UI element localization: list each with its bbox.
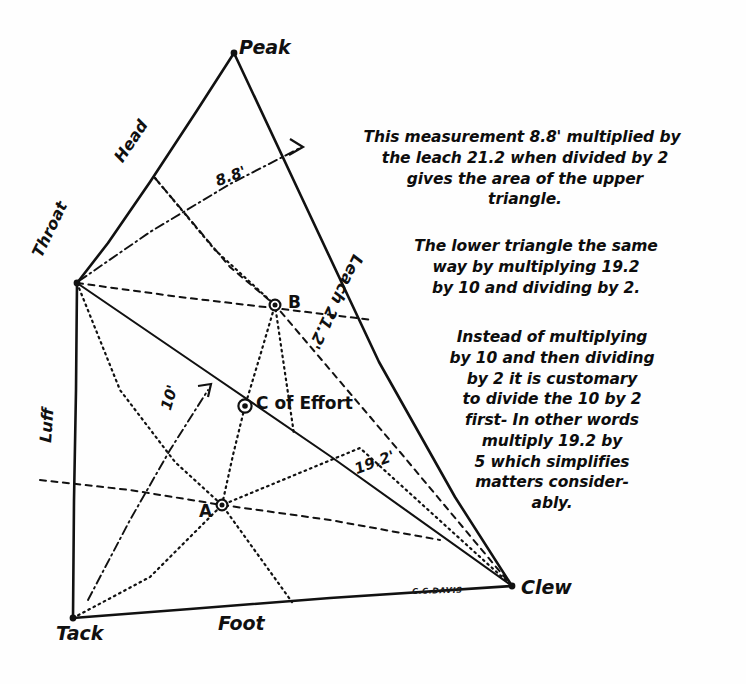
point-label-a: A xyxy=(199,501,212,521)
point-label-b: B xyxy=(288,292,301,312)
note-line: gives the area of the upper xyxy=(310,169,740,190)
measure-88-arrowhead xyxy=(289,139,303,155)
note-line: This measurement 8.8' multiplied by xyxy=(310,127,740,148)
measure-10-line xyxy=(88,390,208,600)
vertex-dot-tack xyxy=(70,615,77,622)
vertex-label-peak: Peak xyxy=(239,36,291,58)
note-line: by 10 and then dividing xyxy=(368,348,736,369)
edge-label-luff: Luff xyxy=(36,407,57,443)
note-line: matters consider- xyxy=(368,472,736,493)
edge-luff-line xyxy=(73,283,77,618)
note-line: by 2 it is customary xyxy=(368,369,736,390)
note-line: triangle. xyxy=(310,189,740,210)
drawing-sheet: Peak Throat Tack Clew Head Leach 21.2' L… xyxy=(0,0,746,684)
note-line: the leach 21.2 when divided by 2 xyxy=(310,148,740,169)
measure-88-line xyxy=(79,148,300,281)
note-line: multiply 19.2 by xyxy=(368,431,736,452)
edge-label-foot: Foot xyxy=(218,612,265,634)
note-line: to divide the 10 by 2 xyxy=(368,389,736,410)
note-line: way by multiplying 19.2 xyxy=(336,257,736,278)
vertex-label-tack: Tack xyxy=(56,622,103,644)
note-shortcut: Instead of multiplying by 10 and then di… xyxy=(368,327,736,514)
marker-centre-of-effort xyxy=(238,399,251,412)
note-line: ably. xyxy=(368,493,736,514)
note-upper-triangle: This measurement 8.8' multiplied by the … xyxy=(310,127,740,210)
marker-point-a xyxy=(217,500,228,511)
note-line: by 10 and dividing by 2. xyxy=(336,278,736,299)
vertex-dot-throat xyxy=(74,280,81,287)
vertex-dot-peak xyxy=(231,50,238,57)
vertex-dot-clew xyxy=(509,583,516,590)
vertex-label-clew: Clew xyxy=(521,576,572,598)
note-lower-triangle: The lower triangle the same way by multi… xyxy=(336,236,736,298)
artist-signature: C.C.DAVIS xyxy=(412,587,463,596)
note-line: The lower triangle the same xyxy=(336,236,736,257)
note-line: 5 which simplifies xyxy=(368,452,736,473)
edge-head-line xyxy=(77,53,234,283)
note-line: first- In other words xyxy=(368,410,736,431)
marker-point-b xyxy=(270,300,281,311)
note-line: Instead of multiplying xyxy=(368,327,736,348)
point-label-centre-of-effort: C of Effort xyxy=(256,393,353,413)
median-lower-throat xyxy=(77,283,292,602)
